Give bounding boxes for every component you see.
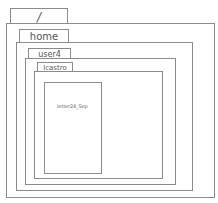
folder-tab-home[interactable]: home	[19, 29, 69, 43]
folder-label-home: home	[30, 31, 58, 42]
file-label: letter24_Sep	[57, 103, 88, 109]
folder-label-root: /	[37, 10, 41, 24]
folder-tab-root[interactable]: /	[10, 8, 68, 24]
file-document[interactable]: letter24_Sep	[44, 82, 102, 174]
